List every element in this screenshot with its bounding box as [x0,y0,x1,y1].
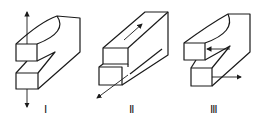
lower-face-1 [16,73,38,89]
panel-mode-3 [184,14,250,86]
panel-label-1: Ⅰ [30,103,60,116]
panel-mode-2 [97,12,168,98]
upper-face-1 [16,44,37,61]
crack-1 [37,52,55,73]
panel-label-3: Ⅲ [199,103,229,116]
lower-face-3 [191,68,212,86]
upper-face-3 [184,43,205,60]
panel-label-2: Ⅱ [116,103,146,116]
panel-mode-1 [16,12,80,107]
upper-face-2 [103,48,128,64]
